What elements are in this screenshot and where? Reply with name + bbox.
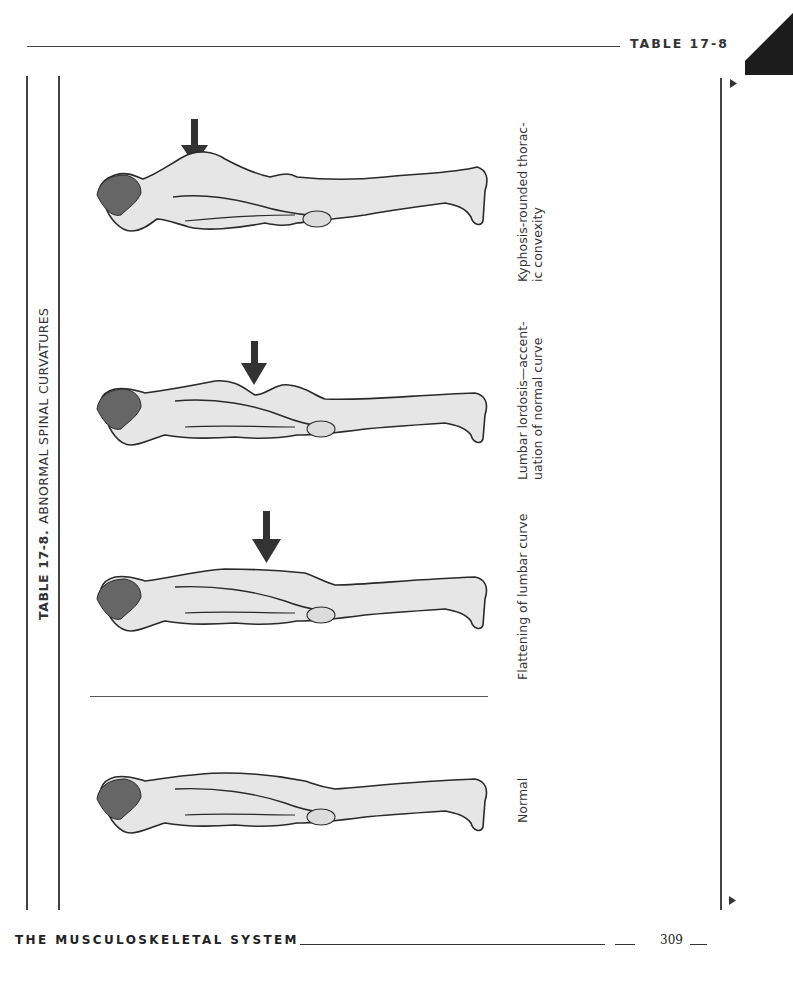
caption-lordosis: Lumbar lordosis—accent- uation of normal… (515, 321, 545, 480)
footer-dash-left (615, 944, 635, 945)
table-title-text: ABNORMAL SPINAL CURVATURES (36, 308, 51, 524)
caption-flattening: Flattening of lumbar curve (515, 514, 530, 680)
figure-lordosis (85, 335, 495, 450)
header-rule (27, 46, 620, 47)
down-arrow-icon (252, 511, 281, 563)
footer-rule (300, 944, 605, 945)
figure-normal (85, 755, 495, 840)
table-title: TABLE 17-8.ABNORMAL SPINAL CURVATURES (36, 308, 51, 620)
right-border (720, 78, 722, 910)
separator-rule (90, 696, 488, 697)
running-header: TABLE 17-8 (630, 36, 729, 51)
left-border-inner (58, 76, 60, 910)
figure-kyphosis (85, 115, 495, 245)
left-border-outer (26, 76, 28, 910)
top-marker-icon (730, 79, 737, 88)
down-arrow-icon (241, 341, 267, 385)
caption-kyphosis: Kyphosis-rounded thorac- ic convexity (515, 122, 545, 282)
caption-normal: Normal (515, 778, 530, 823)
page-number: 309 (660, 933, 683, 947)
table-number: TABLE 17-8. (36, 530, 51, 620)
footer-section-title: THE MUSCULOSKELETAL SYSTEM (15, 933, 299, 947)
page-corner-tab (745, 0, 793, 75)
figure-flattening (85, 505, 495, 640)
bottom-marker-icon (729, 896, 736, 905)
footer-dash-right (690, 944, 707, 945)
